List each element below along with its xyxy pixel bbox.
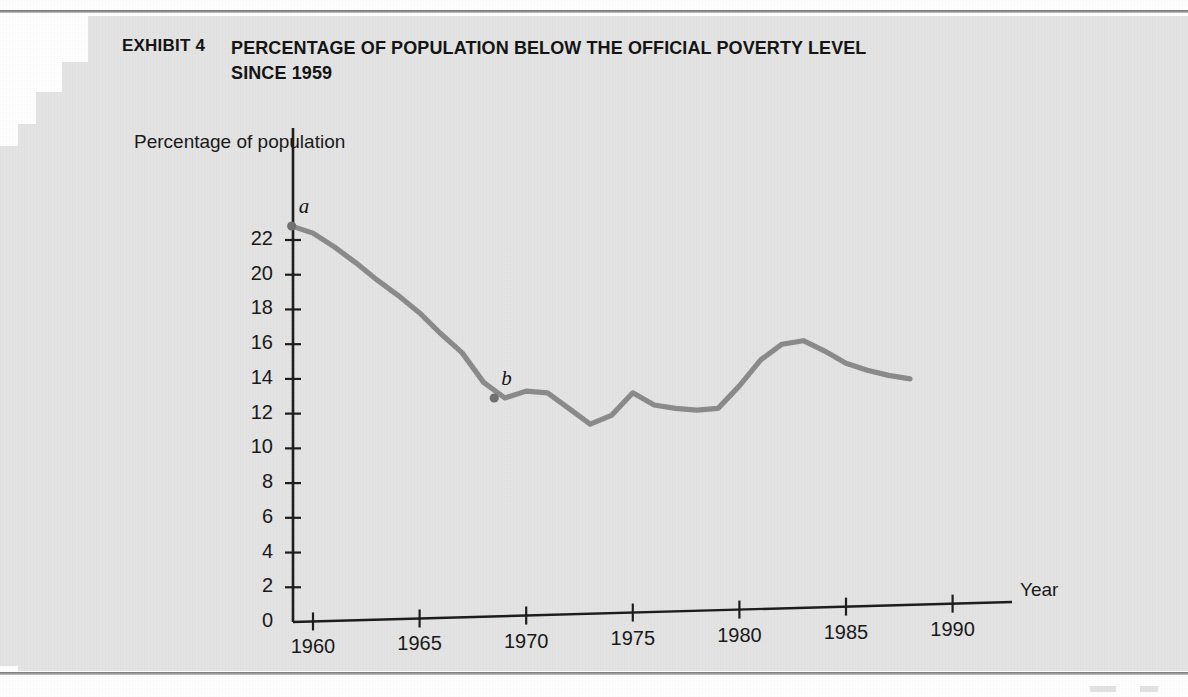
series-line-poverty-rate [292,226,910,424]
y-tick-label-18: 18 [227,296,273,319]
scanned-page: EXHIBIT 4 PERCENTAGE OF POPULATION BELOW… [0,0,1188,697]
chart-axes [293,128,1012,622]
annotation-markers [287,222,499,403]
x-tick-label-1990: 1990 [913,618,993,641]
x-tick-label-1980: 1980 [699,624,779,647]
data-point-a [287,222,296,231]
x-tick-label-1970: 1970 [486,630,566,653]
y-tick-label-4: 4 [227,540,273,563]
y-tick-label-14: 14 [227,366,273,389]
series-layer [292,226,910,424]
y-tick-label-8: 8 [227,470,273,493]
y-tick-label-16: 16 [227,331,273,354]
y-tick-label-12: 12 [227,401,273,424]
x-axis-title: Year [1020,578,1058,602]
y-tick-label-2: 2 [227,574,273,597]
x-tick-label-1985: 1985 [806,621,886,644]
x-axis-line [293,602,1012,622]
y-tick-label-10: 10 [227,435,273,458]
y-tick-label-20: 20 [227,262,273,285]
y-tick-label-0: 0 [227,609,273,632]
point-label-a: a [299,194,310,219]
data-point-b [490,393,499,402]
y-tick-label-22: 22 [227,227,273,250]
point-label-b: b [501,366,512,391]
y-tick-label-6: 6 [227,505,273,528]
x-tick-label-1975: 1975 [593,627,673,650]
y-axis-title: Percentage of population [134,130,345,154]
poverty-rate-line-chart [0,0,1188,697]
x-tick-label-1965: 1965 [380,632,460,655]
x-tick-label-1960: 1960 [273,635,353,658]
